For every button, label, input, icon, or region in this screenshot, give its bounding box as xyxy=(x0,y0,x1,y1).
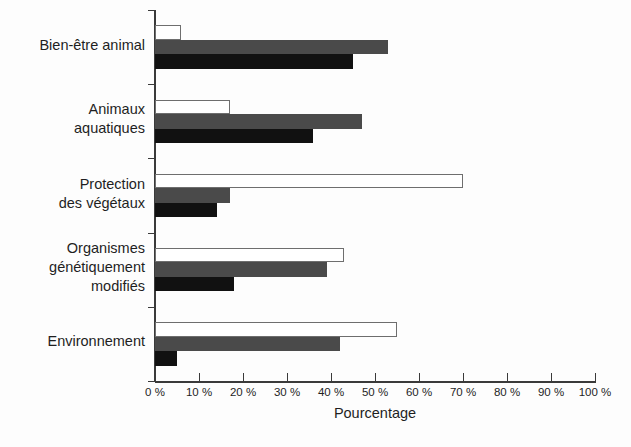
x-tick-label-0: 0 % xyxy=(145,386,165,398)
y-tick-4 xyxy=(148,307,155,308)
bar-2-white xyxy=(155,174,463,189)
x-tick-50 xyxy=(375,373,376,382)
x-tick-70 xyxy=(463,373,464,382)
bar-2-black xyxy=(155,203,217,218)
category-label-0: Bien-être animal xyxy=(0,36,145,55)
x-tick-20 xyxy=(243,373,244,382)
category-label-1: Animaux aquatiques xyxy=(0,100,145,138)
bar-3-gray xyxy=(155,262,327,277)
x-tick-label-30: 30 % xyxy=(274,386,300,398)
x-tick-label-40: 40 % xyxy=(318,386,344,398)
category-label-2: Protection des végétaux xyxy=(0,175,145,213)
bar-3-white xyxy=(155,248,344,263)
x-tick-label-70: 70 % xyxy=(450,386,476,398)
bar-chart: 0 %10 %20 %30 %40 %50 %60 %70 %80 %90 %1… xyxy=(0,0,631,447)
x-tick-label-10: 10 % xyxy=(186,386,212,398)
bar-2-gray xyxy=(155,188,230,203)
x-tick-label-60: 60 % xyxy=(406,386,432,398)
y-tick-3 xyxy=(148,233,155,234)
x-axis-title: Pourcentage xyxy=(155,405,595,421)
x-tick-10 xyxy=(199,373,200,382)
category-label-4: Environnement xyxy=(0,332,145,351)
x-tick-label-50: 50 % xyxy=(362,386,388,398)
x-tick-label-90: 90 % xyxy=(538,386,564,398)
x-tick-label-100: 100 % xyxy=(579,386,612,398)
bar-1-white xyxy=(155,100,230,115)
bar-1-gray xyxy=(155,114,362,129)
x-tick-label-20: 20 % xyxy=(230,386,256,398)
x-tick-0 xyxy=(155,373,156,382)
bar-1-black xyxy=(155,129,313,144)
x-tick-40 xyxy=(331,373,332,382)
bar-3-black xyxy=(155,277,234,292)
bar-4-gray xyxy=(155,337,340,352)
x-tick-30 xyxy=(287,373,288,382)
x-tick-90 xyxy=(551,373,552,382)
y-tick-0 xyxy=(148,10,155,11)
y-tick-2 xyxy=(148,158,155,159)
x-tick-60 xyxy=(419,373,420,382)
y-tick-5 xyxy=(148,381,155,382)
x-tick-80 xyxy=(507,373,508,382)
bar-4-white xyxy=(155,322,397,337)
bar-0-white xyxy=(155,25,181,40)
y-tick-1 xyxy=(148,84,155,85)
bar-0-black xyxy=(155,54,353,69)
x-tick-label-80: 80 % xyxy=(494,386,520,398)
category-label-3: Organismes génétiquement modifiés xyxy=(0,239,145,296)
bar-4-black xyxy=(155,351,177,366)
x-tick-100 xyxy=(595,373,596,382)
bar-0-gray xyxy=(155,40,388,55)
